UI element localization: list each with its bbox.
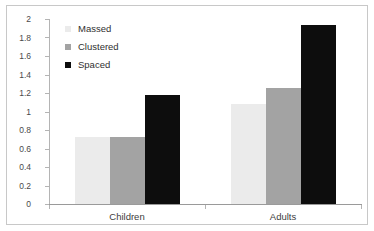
- x-axis-tick-mark: [361, 205, 362, 209]
- y-axis-tick-label: 1.8: [0, 33, 31, 42]
- x-axis-tick-mark: [49, 205, 50, 209]
- y-axis-tick-label: 1: [0, 107, 31, 116]
- bar-adults-massed[interactable]: [231, 104, 266, 204]
- y-axis-tick-label: 1.6: [0, 52, 31, 61]
- bar-children-spaced[interactable]: [145, 95, 180, 204]
- x-axis-category-label: Children: [109, 211, 144, 222]
- bar-children-massed[interactable]: [75, 137, 110, 204]
- bar-adults-spaced[interactable]: [301, 25, 336, 204]
- legend-swatch-icon: [65, 26, 71, 32]
- legend-swatch-icon: [65, 62, 71, 68]
- bar-adults-clustered[interactable]: [266, 88, 301, 204]
- legend-item-label: Spaced: [78, 60, 110, 70]
- y-axis-tick-label: 0.4: [0, 163, 31, 172]
- chart-legend: MassedClusteredSpaced: [65, 20, 119, 74]
- legend-item-spaced[interactable]: Spaced: [65, 56, 119, 74]
- y-axis-tick-label: 0.6: [0, 144, 31, 153]
- legend-item-label: Clustered: [78, 42, 119, 52]
- y-axis-tick-label: 1.4: [0, 70, 31, 79]
- y-axis-tick-label: 2: [0, 15, 31, 24]
- legend-item-label: Massed: [78, 24, 111, 34]
- chart-frame: 21.81.61.41.210.80.60.40.20 ChildrenAdul…: [6, 5, 368, 225]
- legend-item-clustered[interactable]: Clustered: [65, 38, 119, 56]
- y-axis-tick-label: 0.8: [0, 126, 31, 135]
- y-axis-tick-label: 1.2: [0, 89, 31, 98]
- bar-children-clustered[interactable]: [110, 137, 145, 204]
- y-axis-tick-label: 0.2: [0, 181, 31, 190]
- y-axis-tick-label: 0: [0, 200, 31, 209]
- x-axis-category-label: Adults: [270, 211, 296, 222]
- legend-swatch-icon: [65, 44, 71, 50]
- x-axis-tick-mark: [205, 205, 206, 209]
- legend-item-massed[interactable]: Massed: [65, 20, 119, 38]
